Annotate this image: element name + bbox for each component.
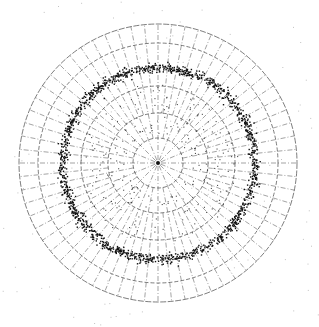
background-noise-points: [3, 2, 319, 326]
center-point: [156, 161, 160, 165]
polar-plot-canvas: [0, 0, 319, 327]
polar-diagram: [0, 0, 319, 327]
